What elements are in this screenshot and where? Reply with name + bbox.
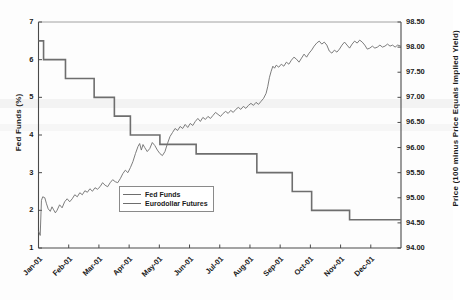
y-axis-right-tick: 98.00 <box>406 42 440 51</box>
y-axis-left-tick: 7 <box>14 17 34 26</box>
chart-legend: Fed Funds Eurodollar Futures <box>119 186 214 212</box>
y-axis-right-tick: 97.50 <box>406 67 440 76</box>
legend-swatch-fed-funds <box>123 194 141 195</box>
legend-label-fed-funds: Fed Funds <box>145 191 180 198</box>
legend-item: Fed Funds <box>123 190 208 199</box>
legend-label-eurodollar-futures: Eurodollar Futures <box>145 200 208 207</box>
y-axis-right-tick: 96.00 <box>406 143 440 152</box>
y-axis-right-title: Price (100 minus Price Equals Implied Yi… <box>451 47 460 207</box>
y-axis-left-title: Fed Funds (%) <box>14 73 23 173</box>
legend-swatch-eurodollar-futures <box>123 203 141 204</box>
y-axis-left-tick: 6 <box>14 55 34 64</box>
y-axis-left-tick: 2 <box>14 205 34 214</box>
y-axis-right-tick: 95.00 <box>406 193 440 202</box>
y-axis-right-tick: 94.50 <box>406 218 440 227</box>
y-axis-right-tick: 96.50 <box>406 117 440 126</box>
y-axis-left-tick: 1 <box>14 243 34 252</box>
legend-item: Eurodollar Futures <box>123 199 208 208</box>
y-axis-right-tick: 98.50 <box>406 17 440 26</box>
y-axis-right-tick: 94.00 <box>406 243 440 252</box>
y-axis-left-tick: 5 <box>14 92 34 101</box>
y-axis-left-tick: 4 <box>14 130 34 139</box>
y-axis-right-tick: 97.00 <box>406 92 440 101</box>
y-axis-left-tick: 3 <box>14 168 34 177</box>
y-axis-right-tick: 95.50 <box>406 168 440 177</box>
